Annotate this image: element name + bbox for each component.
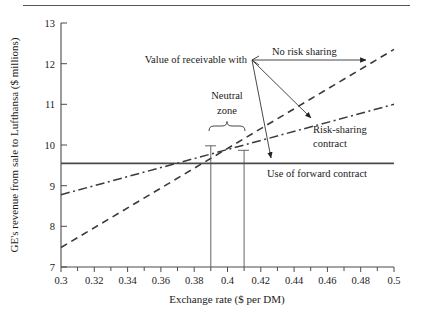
annotation-use-of-forward-contract: Use of forward contract (267, 168, 367, 179)
y-tick-label-7: 7 (50, 262, 55, 273)
annotation-no-risk-sharing: No risk sharing (272, 46, 337, 57)
annotation-neutral-zone-line1: Neutral (211, 90, 243, 101)
annotation-risk-sharing-line2: contract (313, 138, 347, 149)
x-tick-label-7: 0.44 (285, 275, 304, 286)
leader-risk-sharing-contract (252, 60, 311, 118)
neutral-zone-brace (209, 122, 245, 132)
y-tick-label-13: 13 (45, 18, 56, 29)
y-tick-label-12: 12 (45, 59, 56, 70)
x-tick-label-0: 0.3 (54, 275, 67, 286)
y-axis-title: GE's revenue from sale to Lufthansa ($ m… (8, 37, 21, 252)
x-tick-label-3: 0.36 (152, 275, 170, 286)
y-tick-label-11: 11 (45, 99, 55, 110)
x-tick-label-1: 0.32 (85, 275, 103, 286)
x-tick-label-2: 0.34 (118, 275, 137, 286)
y-tick-label-10: 10 (45, 140, 56, 151)
leader-use-of-forward-contract (252, 60, 271, 158)
x-axis-title: Exchange rate ($ per DM) (169, 293, 285, 306)
annotation-value-of-receivable: Value of receivable with (145, 54, 248, 65)
x-tick-label-4: 0.38 (185, 275, 203, 286)
series-risk-sharing-contract (61, 104, 394, 194)
x-tick-label-9: 0.48 (352, 275, 370, 286)
x-tick-label-8: 0.46 (318, 275, 336, 286)
chart-figure: 13 12 11 10 9 8 7 0.3 0.32 0.34 0.36 0.3… (0, 0, 424, 319)
annotation-neutral-zone-line2: zone (217, 105, 237, 116)
annotation-risk-sharing-line1: Risk-sharing (313, 124, 367, 135)
chart-canvas: 13 12 11 10 9 8 7 0.3 0.32 0.34 0.36 0.3… (0, 0, 424, 319)
x-tick-label-10: 0.5 (387, 275, 400, 286)
x-tick-label-5: 0.4 (221, 275, 235, 286)
y-axis (61, 23, 67, 267)
y-tick-label-9: 9 (50, 181, 55, 192)
x-tick-label-6: 0.42 (252, 275, 270, 286)
x-axis (61, 267, 394, 272)
y-tick-label-8: 8 (50, 221, 55, 232)
